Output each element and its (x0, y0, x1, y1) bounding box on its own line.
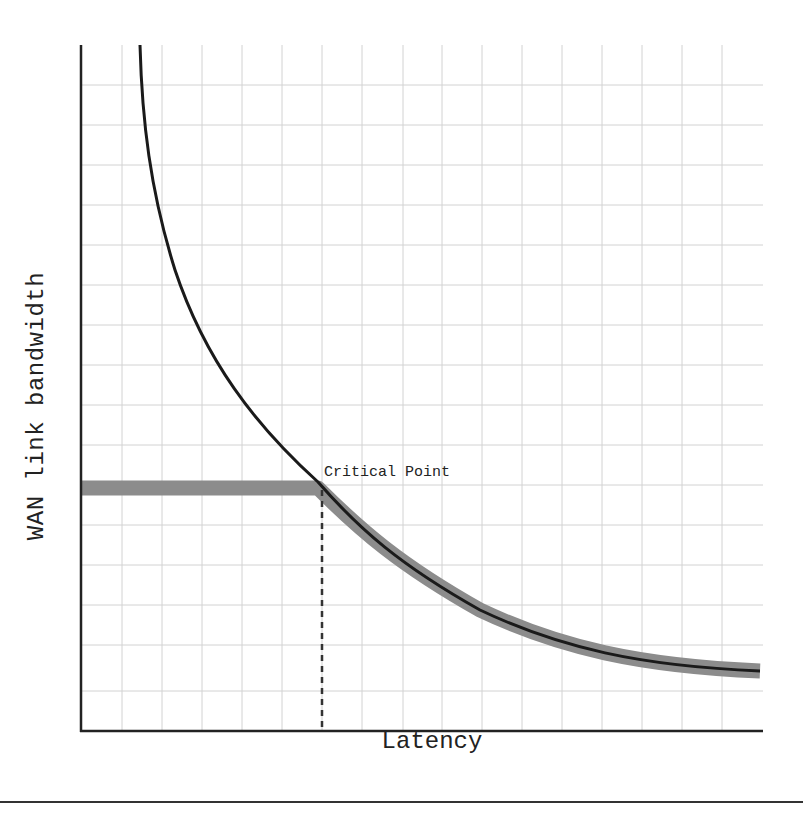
bandwidth-curve (140, 45, 760, 671)
bandwidth-latency-diagram: WAN link bandwidth Latency Critical Poin… (0, 0, 803, 817)
highlight-band (81, 488, 760, 671)
x-axis-label: Latency (382, 728, 483, 755)
critical-point-label: Critical Point (324, 464, 450, 481)
y-axis-label: WAN link bandwidth (23, 272, 50, 540)
chart-canvas (0, 0, 803, 817)
grid (81, 45, 763, 731)
bottom-divider (0, 801, 803, 803)
axes (80, 45, 763, 732)
